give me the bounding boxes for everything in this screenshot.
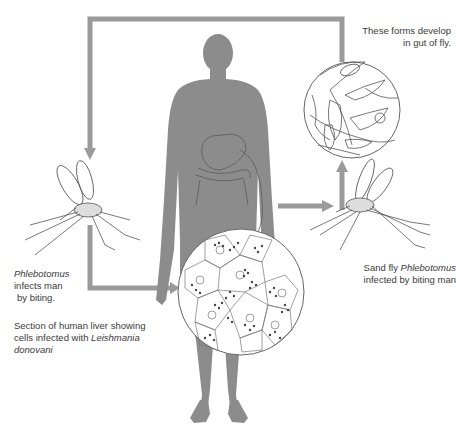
gut-forms-magnified-circle	[304, 62, 400, 158]
label-liver-line1: Section of human liver showing	[14, 320, 164, 332]
label-sandfly-genus: Phlebotomus	[401, 262, 456, 273]
label-by-biting: by biting.	[14, 292, 94, 304]
label-species-donovani: donovani	[14, 344, 53, 355]
label-fly-infects-man: Phlebotomus infects man by biting.	[14, 268, 94, 304]
sand-fly-left	[25, 159, 140, 255]
label-gut-forms: These forms develop in gut of fly.	[356, 25, 451, 49]
arrow-head-down-left-fly	[84, 148, 96, 160]
label-genus-phlebotomus: Phlebotomus	[14, 268, 69, 279]
arrow-head-right-fly	[322, 200, 334, 212]
label-gut-forms-line1: These forms develop	[356, 25, 451, 37]
arrow-head-up-gut	[336, 160, 348, 172]
label-sandfly-infected: Sand fly Phlebotomus infected by biting …	[330, 262, 456, 286]
liver-magnified-circle	[178, 229, 304, 355]
label-sandfly-line2: infected by biting man	[330, 274, 456, 286]
label-liver-section: Section of human liver showing cells inf…	[14, 320, 164, 356]
label-liver-line2-prefix: cells infected with	[14, 332, 91, 343]
life-cycle-diagram	[0, 0, 456, 429]
label-gut-forms-line2: in gut of fly.	[356, 37, 451, 49]
label-sandfly-prefix: Sand fly	[364, 262, 401, 273]
label-infects-man: infects man	[14, 280, 94, 292]
label-genus-leishmania: Leishmania	[91, 332, 140, 343]
human-silhouette	[156, 34, 280, 423]
